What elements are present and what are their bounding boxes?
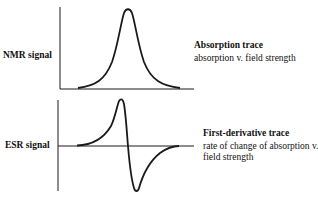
esr-derivative-curve [77,99,179,191]
nmr-absorption-curve [78,9,180,88]
nmr-description: absorption v. field strength [194,53,314,64]
nmr-title: Absorption trace [194,40,263,50]
nmr-plot [0,0,318,197]
esr-ylabel: ESR signal [5,140,50,150]
esr-description: rate of change of absorption v. field st… [203,141,318,163]
nmr-ylabel: NMR signal [3,50,52,60]
esr-title: First-derivative trace [203,128,289,138]
